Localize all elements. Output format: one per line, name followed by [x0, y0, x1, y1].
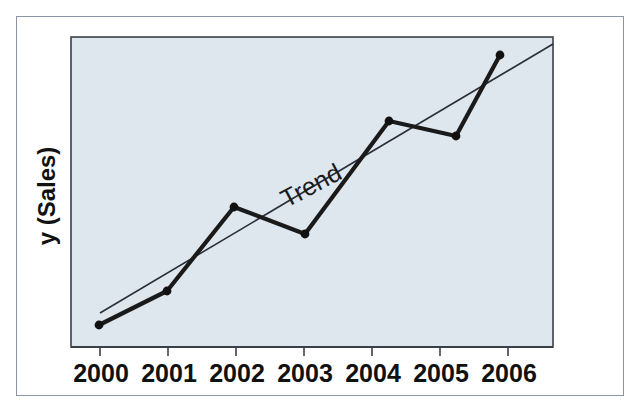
sales-trend-line-chart: 2000 2001 2002 2003 2004 2005 2006 y (Sa…: [0, 0, 642, 412]
data-point-2004: [385, 117, 394, 126]
data-point-2001: [163, 287, 172, 296]
data-point-2002: [230, 203, 239, 212]
x-tick-label-2006: 2006: [481, 359, 537, 387]
data-point-2000: [95, 321, 104, 330]
x-tick-label-2000: 2000: [73, 359, 129, 387]
data-point-2006: [496, 51, 505, 60]
x-axis-tick-labels: 2000 2001 2002 2003 2004 2005 2006: [73, 359, 537, 387]
x-tick-label-2005: 2005: [413, 359, 469, 387]
x-tick-label-2003: 2003: [277, 359, 333, 387]
x-tick-label-2001: 2001: [141, 359, 197, 387]
data-point-2003: [301, 230, 310, 239]
y-axis-title: y (Sales): [33, 147, 60, 246]
data-point-2005: [452, 132, 461, 141]
x-tick-label-2002: 2002: [209, 359, 265, 387]
figure-root: 2000 2001 2002 2003 2004 2005 2006 y (Sa…: [0, 0, 642, 412]
x-axis-ticks: [100, 347, 508, 356]
x-tick-label-2004: 2004: [345, 359, 401, 387]
